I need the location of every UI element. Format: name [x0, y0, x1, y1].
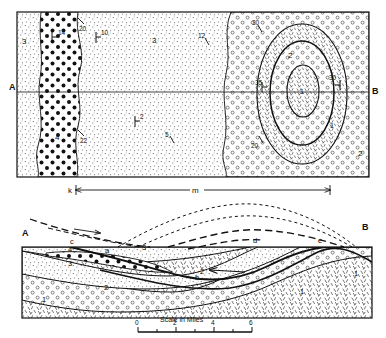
section-panel — [22, 247, 372, 318]
map-unit4-band — [37, 12, 82, 177]
map-endpoint-a: A — [9, 82, 16, 92]
svg-text:2: 2 — [140, 113, 144, 120]
geologic-figure: A B 3 4 3 2 2 1 1 14 20 10 12 22 — [0, 0, 386, 338]
section-unit-3b: 3 — [68, 259, 72, 268]
section-point-e: e — [318, 236, 322, 245]
dimension-label-m: m — [192, 186, 199, 195]
map-unit-label-4-west: 4 — [55, 133, 60, 142]
section-unit-3a: 3 — [142, 243, 146, 252]
map-unit-label-2-dome: 2 — [288, 51, 293, 60]
dimension-line: m k — [68, 184, 330, 196]
dimension-label-k: k — [68, 186, 73, 195]
section-unit-2a: 2 — [104, 283, 108, 292]
svg-text:20: 20 — [79, 25, 87, 32]
svg-text:14: 14 — [58, 29, 66, 36]
section-endpoint-b: B — [362, 222, 369, 232]
svg-text:12: 12 — [198, 32, 206, 39]
figure-canvas: A B 3 4 3 2 2 1 1 14 20 10 12 22 — [0, 0, 386, 338]
svg-text:30: 30 — [252, 19, 260, 26]
scale-tick-2: 2 — [173, 319, 177, 326]
section-point-b: b — [195, 273, 199, 282]
svg-text:20: 20 — [251, 142, 259, 149]
section-unit-2b: 2 — [200, 267, 204, 276]
scale-tick-6: 6 — [249, 319, 253, 326]
svg-text:10: 10 — [101, 29, 109, 36]
section-unit-1c: 1 — [354, 269, 358, 278]
map-unit-label-2-east: 2 — [358, 149, 363, 158]
svg-text:22: 22 — [80, 137, 88, 144]
section-eroded-dashed — [30, 204, 356, 249]
svg-text:30: 30 — [329, 74, 337, 81]
scale-tick-0: 0 — [135, 319, 139, 326]
map-unit-label-3-left: 3 — [22, 37, 27, 46]
section-unit-1a: 1 — [42, 295, 46, 304]
map-unit-label-1-ring: 1 — [330, 122, 334, 129]
scale-tick-4: 4 — [211, 319, 215, 326]
map-unit-label-1-core: 1 — [300, 88, 304, 95]
map-unit-label-3-mid: 3 — [152, 36, 157, 45]
svg-text:35: 35 — [255, 79, 263, 86]
section-unit-4: 4 — [68, 245, 72, 254]
svg-text:5: 5 — [165, 131, 169, 138]
scale-bar-title: Scale in Miles — [160, 316, 204, 323]
map-panel — [17, 12, 369, 177]
section-unit-1b: 1 — [300, 287, 304, 296]
section-point-d: d — [253, 236, 257, 245]
section-endpoint-a: A — [22, 228, 29, 238]
map-endpoint-b: B — [372, 86, 379, 96]
